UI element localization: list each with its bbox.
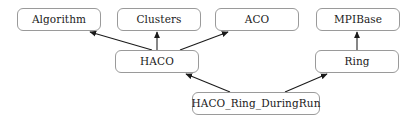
class-node-label: Algorithm (32, 14, 86, 25)
class-node-clusters[interactable]: Clusters (117, 8, 201, 31)
inheritance-arrow (90, 32, 152, 50)
class-node-aco[interactable]: ACO (215, 8, 299, 31)
class-node-label: MPIBase (334, 14, 382, 25)
class-node-algorithm[interactable]: Algorithm (17, 8, 101, 31)
class-diagram-canvas: Algorithm Clusters ACO MPIBase HACO Ring… (0, 0, 413, 122)
inheritance-arrow (180, 32, 228, 50)
inheritance-arrow (186, 74, 230, 92)
class-node-ring[interactable]: Ring (315, 50, 399, 73)
class-node-haco[interactable]: HACO (115, 50, 199, 73)
inheritance-arrow (285, 74, 327, 92)
class-node-label: ACO (245, 14, 270, 25)
class-node-label: HACO (140, 56, 174, 67)
class-node-label: Clusters (136, 14, 181, 25)
class-node-mpibase[interactable]: MPIBase (316, 8, 400, 31)
class-node-haco-ring-duringrun[interactable]: HACO_Ring_DuringRun (192, 92, 320, 115)
class-node-label: HACO_Ring_DuringRun (192, 98, 321, 109)
class-node-label: Ring (344, 56, 369, 67)
